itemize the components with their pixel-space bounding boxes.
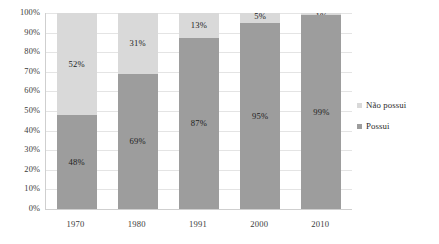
bar-segment-label: 13% <box>191 21 207 30</box>
legend-label: Possui <box>366 122 390 131</box>
bar-segment-possui[interactable]: 87% <box>179 38 219 209</box>
y-axis-tick: 40% <box>0 126 40 134</box>
bar-column-1991[interactable]: 13% 87% <box>179 13 219 209</box>
y-axis-tick: 10% <box>0 185 40 193</box>
y-axis-tick: 70% <box>0 68 40 76</box>
x-axis-tick: 2000 <box>239 212 279 229</box>
bar-segment-label: 52% <box>68 60 84 69</box>
x-axis: 1970 1980 1991 2000 2010 <box>45 212 351 232</box>
bar-segment-label: 5% <box>254 12 266 21</box>
x-axis-tick: 1980 <box>117 212 157 229</box>
bar-segment-label: 95% <box>252 112 268 121</box>
y-axis-tick: 0% <box>0 205 40 213</box>
legend-item-possui[interactable]: Possui <box>357 122 437 131</box>
x-axis-tick: 1991 <box>178 212 218 229</box>
bar-segment-label: 99% <box>313 108 329 117</box>
stacked-bar-chart: 100% 90% 80% 70% 60% 50% 40% 30% 20% 10%… <box>0 0 439 244</box>
bar-segment-nao-possui[interactable]: 31% <box>118 13 158 74</box>
bar-segment-label: 31% <box>130 39 146 48</box>
bar-segment-nao-possui[interactable]: 5% <box>240 13 280 23</box>
bar-column-2010[interactable]: 1% 99% <box>301 13 341 209</box>
legend-label: Não possui <box>366 101 406 110</box>
bar-segment-label: 69% <box>130 137 146 146</box>
bar-segment-possui[interactable]: 69% <box>118 74 158 209</box>
legend-swatch-icon <box>357 103 362 108</box>
bar-segment-label: 48% <box>68 158 84 167</box>
bar-segment-possui[interactable]: 99% <box>301 15 341 209</box>
x-axis-tick: 2010 <box>300 212 340 229</box>
y-axis-tick: 30% <box>0 146 40 154</box>
bar-segment-possui[interactable]: 95% <box>240 23 280 209</box>
y-axis-tick: 80% <box>0 48 40 56</box>
bar-segment-label: 87% <box>191 119 207 128</box>
y-axis-tick: 20% <box>0 166 40 174</box>
bar-column-1970[interactable]: 52% 48% <box>57 13 97 209</box>
bar-column-2000[interactable]: 5% 95% <box>240 13 280 209</box>
y-axis-tick: 60% <box>0 87 40 95</box>
y-axis-tick: 50% <box>0 107 40 115</box>
bar-group: 52% 48% 31% 69% 13% 87% <box>46 13 352 209</box>
y-axis-tick: 100% <box>0 9 40 17</box>
y-axis-tick: 90% <box>0 28 40 36</box>
x-axis-tick: 1970 <box>56 212 96 229</box>
legend-swatch-icon <box>357 124 362 129</box>
legend-item-nao-possui[interactable]: Não possui <box>357 101 437 110</box>
plot-area: 52% 48% 31% 69% 13% 87% <box>45 13 352 210</box>
bar-segment-nao-possui[interactable]: 13% <box>179 13 219 38</box>
bar-column-1980[interactable]: 31% 69% <box>118 13 158 209</box>
y-axis: 100% 90% 80% 70% 60% 50% 40% 30% 20% 10%… <box>0 13 44 209</box>
bar-segment-possui[interactable]: 48% <box>57 115 97 209</box>
legend: Não possui Possui <box>357 101 437 143</box>
bar-segment-nao-possui[interactable]: 52% <box>57 13 97 115</box>
